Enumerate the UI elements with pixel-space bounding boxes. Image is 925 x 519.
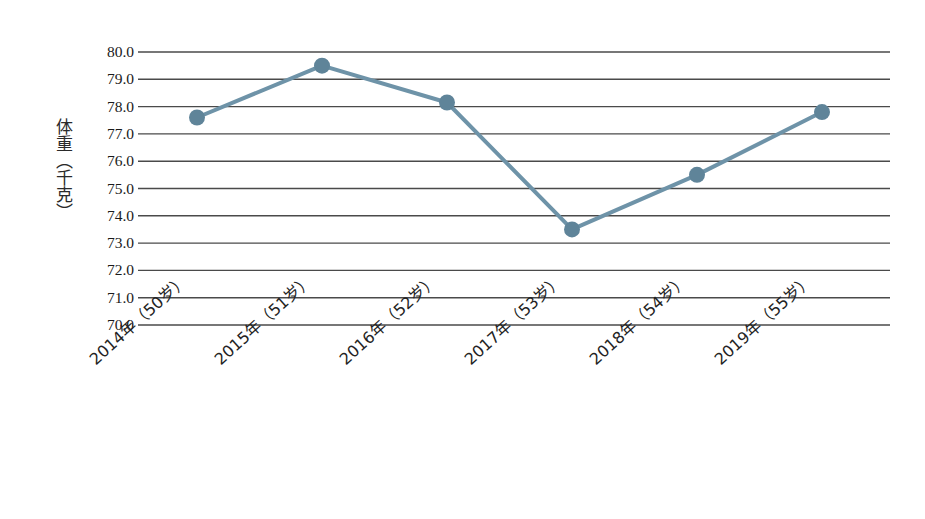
x-axis-tick-labels: 2014年（50岁）2015年（51岁）2016年（52岁）2017年（53岁）… (0, 0, 925, 519)
x-axis-tick-label: 2015年（51岁） (212, 272, 316, 368)
x-axis-tick-label: 2019年（55岁） (712, 272, 816, 368)
x-axis-tick-label: 2016年（52岁） (337, 272, 441, 368)
x-axis-tick-label: 2017年（53岁） (462, 272, 566, 368)
x-axis-tick-label: 2018年（54岁） (587, 272, 691, 368)
x-axis-tick-label: 2014年（50岁） (87, 272, 191, 368)
weight-line-chart: 体重（千克） 80.079.078.077.076.075.074.073.07… (0, 0, 925, 519)
